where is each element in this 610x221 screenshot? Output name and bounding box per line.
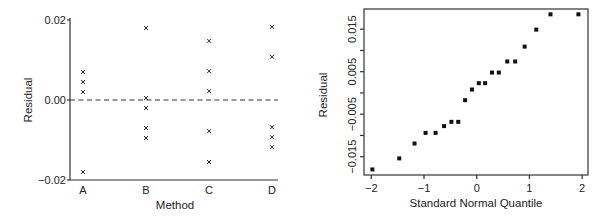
quantile-point bbox=[463, 98, 467, 102]
right-plot-frame bbox=[364, 9, 588, 175]
residual-point-a bbox=[81, 170, 85, 174]
residual-point-b bbox=[144, 136, 148, 140]
quantile-point bbox=[483, 81, 487, 85]
residual-point-b bbox=[144, 96, 148, 100]
right-x-tick-label: 1 bbox=[526, 182, 532, 194]
right-y-tick-label: 0.005 bbox=[346, 58, 358, 86]
right-x-tick-label: −2 bbox=[365, 182, 378, 194]
residual-point-b bbox=[144, 126, 148, 130]
right-x-axis-title: Standard Normal Quantile bbox=[410, 197, 543, 209]
quantile-point bbox=[370, 167, 374, 171]
quantile-point bbox=[513, 60, 517, 64]
quantile-point bbox=[397, 156, 401, 160]
residual-by-method-chart: −0.020.000.02ABCD Method Residual bbox=[0, 0, 305, 221]
quantile-point bbox=[413, 142, 417, 146]
residual-point-d bbox=[270, 145, 274, 149]
quantile-point bbox=[442, 124, 446, 128]
residual-point-c bbox=[207, 89, 211, 93]
quantile-point bbox=[534, 28, 538, 32]
residual-point-d bbox=[270, 125, 274, 129]
residual-point-b bbox=[144, 106, 148, 110]
right-x-tick-label: −1 bbox=[418, 182, 431, 194]
residual-point-d bbox=[270, 25, 274, 29]
residual-point-a bbox=[81, 80, 85, 84]
quantile-point bbox=[505, 60, 509, 64]
left-y-tick-label: 0.00 bbox=[45, 94, 66, 106]
residual-point-c bbox=[207, 160, 211, 164]
left-y-axis-title: Residual bbox=[22, 78, 34, 123]
residual-point-d bbox=[270, 55, 274, 59]
quantile-point bbox=[449, 120, 453, 124]
left-x-tick-label: B bbox=[142, 184, 149, 196]
quantile-point bbox=[434, 131, 438, 135]
left-x-tick-label: D bbox=[268, 184, 276, 196]
left-x-tick-label: A bbox=[79, 184, 87, 196]
quantile-point bbox=[477, 81, 481, 85]
right-x-tick-label: 2 bbox=[579, 182, 585, 194]
residual-point-a bbox=[81, 70, 85, 74]
residual-point-c bbox=[207, 69, 211, 73]
left-x-axis-title: Method bbox=[156, 199, 194, 211]
quantile-point bbox=[523, 45, 527, 49]
quantile-point bbox=[456, 120, 460, 124]
left-y-tick-label: −0.02 bbox=[38, 174, 66, 186]
residual-point-a bbox=[81, 90, 85, 94]
residual-point-b bbox=[144, 26, 148, 30]
right-x-tick-label: 0 bbox=[474, 182, 480, 194]
right-y-tick-label: −0.015 bbox=[346, 140, 358, 174]
right-y-tick-label: 0.015 bbox=[346, 15, 358, 43]
quantile-point bbox=[490, 71, 494, 75]
right-y-tick-label: −0.005 bbox=[346, 97, 358, 131]
residual-point-d bbox=[270, 135, 274, 139]
residual-point-c bbox=[207, 39, 211, 43]
quantile-point bbox=[470, 88, 474, 92]
left-y-tick-label: 0.02 bbox=[45, 14, 66, 26]
right-y-axis-title: Residual bbox=[317, 73, 329, 118]
left-x-tick-label: C bbox=[205, 184, 213, 196]
quantile-point bbox=[424, 131, 428, 135]
residual-point-c bbox=[207, 129, 211, 133]
quantile-point bbox=[548, 12, 552, 16]
quantile-point bbox=[576, 12, 580, 16]
quantile-point bbox=[497, 71, 501, 75]
